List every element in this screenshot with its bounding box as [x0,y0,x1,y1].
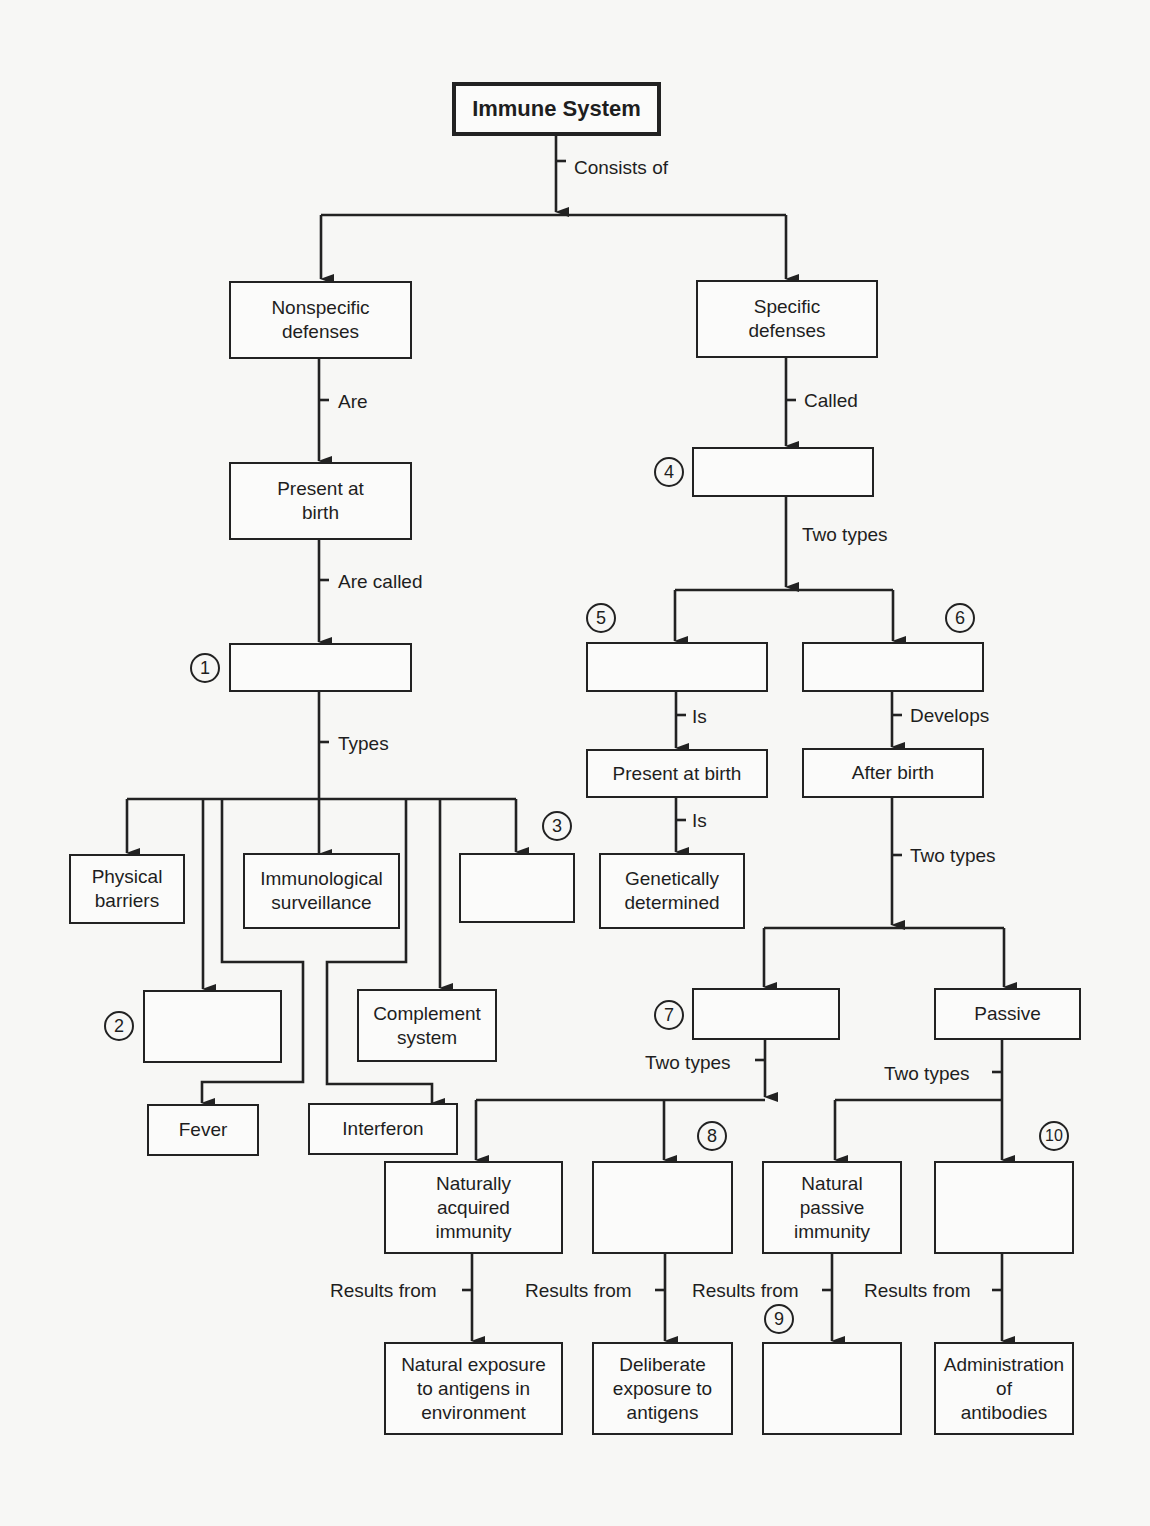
link-label-two-types-specific: Two types [802,524,888,546]
link-label-results-from-2: Results from [525,1280,632,1302]
link-label-two-types-passive: Two types [884,1063,970,1085]
node-passive: Passive [934,988,1081,1040]
blank-box-7 [692,988,840,1040]
blank-box-8 [592,1161,733,1254]
node-administration-of-antibodies: Administration of antibodies [934,1342,1074,1435]
blank-box-2 [143,990,282,1063]
link-label-is-1: Is [692,706,707,728]
number-badge-6: 6 [945,603,975,633]
link-label-are: Are [338,391,368,413]
number-badge-2: 2 [104,1011,134,1041]
number-badge-3: 3 [542,811,572,841]
blank-box-5 [586,642,768,692]
link-label-called: Called [804,390,858,412]
link-label-types: Types [338,733,389,755]
blank-box-1 [229,643,412,692]
blank-box-4 [692,447,874,497]
node-physical-barriers: Physical barriers [69,854,185,924]
blank-box-9 [762,1342,902,1435]
blank-box-6 [802,642,984,692]
link-label-results-from-1: Results from [330,1280,437,1302]
link-label-results-from-4: Results from [864,1280,971,1302]
node-deliberate-exposure: Deliberate exposure to antigens [592,1342,733,1435]
link-label-results-from-3: Results from [692,1280,799,1302]
node-natural-passive-immunity: Natural passive immunity [762,1161,902,1254]
concept-map: Immune System Nonspecific defenses Speci… [0,0,1150,1526]
link-label-two-types-after-birth: Two types [910,845,996,867]
node-genetically-determined: Genetically determined [599,853,745,929]
number-badge-5: 5 [586,603,616,633]
number-badge-8: 8 [697,1121,727,1151]
node-after-birth: After birth [802,748,984,798]
number-badge-10: 10 [1039,1121,1069,1151]
number-badge-9: 9 [764,1304,794,1334]
number-badge-7: 7 [654,1000,684,1030]
node-immunological-surveillance: Immunological surveillance [243,853,400,929]
node-fever: Fever [147,1104,259,1156]
blank-box-10 [934,1161,1074,1254]
node-nonspecific-defenses: Nonspecific defenses [229,281,412,359]
node-naturally-acquired-immunity: Naturally acquired immunity [384,1161,563,1254]
number-badge-1: 1 [190,653,220,683]
node-immune-system: Immune System [452,82,661,136]
node-specific-defenses: Specific defenses [696,280,878,358]
node-natural-exposure: Natural exposure to antigens in environm… [384,1342,563,1435]
link-label-are-called: Are called [338,571,423,593]
node-present-at-birth-right: Present at birth [586,749,768,798]
node-interferon: Interferon [308,1103,458,1155]
number-badge-4: 4 [654,457,684,487]
link-label-is-2: Is [692,810,707,832]
node-present-at-birth-left: Present at birth [229,462,412,540]
link-label-two-types-7: Two types [645,1052,731,1074]
blank-box-3 [459,853,575,923]
link-label-develops: Develops [910,705,989,727]
link-label-consists-of: Consists of [574,157,668,179]
node-complement-system: Complement system [357,989,497,1062]
